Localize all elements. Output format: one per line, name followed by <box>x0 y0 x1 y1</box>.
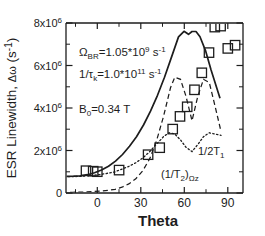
y-axis-title-unit-close: ) <box>4 38 19 43</box>
y-axis-title-main: ESR Linewidth, <box>4 82 19 178</box>
x-axis-title: Theta <box>138 212 179 229</box>
y-tick-label-0: 0 <box>56 187 62 199</box>
figure-root: 0 2x106 4x106 6x106 8x106 0 30 60 90 The… <box>0 0 265 236</box>
x-tick-label-30: 30 <box>134 196 148 210</box>
y-axis-title: ESR Linewidth, Δω (s-1) <box>3 38 19 178</box>
x-tick-label-90: 90 <box>221 196 235 210</box>
esr-linewidth-plot: 0 2x106 4x106 6x106 8x106 0 30 60 90 The… <box>0 0 265 236</box>
y-axis-title-unit-open: (s <box>4 51 19 66</box>
x-tick-label-0: 0 <box>94 196 101 210</box>
y-axis-title-symbol: Δω <box>6 66 18 82</box>
x-tick-label-60: 60 <box>178 196 192 210</box>
